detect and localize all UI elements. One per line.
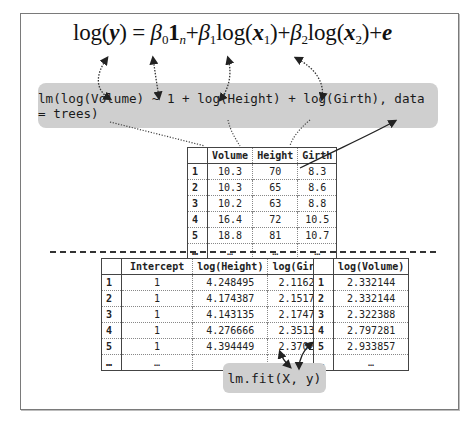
table-row: 414.2766662.351375 xyxy=(102,323,338,339)
table-cell: 8.3 xyxy=(298,164,337,180)
column-header: Height xyxy=(253,148,298,164)
formula-x1: x xyxy=(252,20,263,45)
table-cell: 63 xyxy=(253,196,298,212)
regression-formula: log(y) = β01n+β1log(x1)+β2log(x2)+e xyxy=(73,20,392,46)
row-index: 1 xyxy=(314,275,334,291)
table-cell: 2.933857 xyxy=(334,339,409,355)
formula-text: log( xyxy=(73,20,109,45)
table-row: 310.2638.8 xyxy=(188,196,337,212)
formula-text: ) = xyxy=(119,20,150,45)
lm-fit-code: lm.fit(X, y) xyxy=(228,371,322,386)
formula-beta2: β xyxy=(290,20,301,45)
table-cell: 65 xyxy=(253,180,298,196)
table-cell: 8.6 xyxy=(298,180,337,196)
row-index: 2 xyxy=(188,180,208,196)
table-cell: 4.143135 xyxy=(193,307,268,323)
lm-call-code: lm(log(Volume) ~ 1 + log(Height) + log(G… xyxy=(38,91,438,121)
table-cell: … xyxy=(334,355,409,371)
table-cell: 81 xyxy=(253,228,298,244)
row-index: 3 xyxy=(102,307,122,323)
column-header xyxy=(102,259,122,275)
table-cell: 72 xyxy=(253,212,298,228)
table-row: 52.933857 xyxy=(314,339,409,355)
table-row: 22.332144 xyxy=(314,291,409,307)
formula-text: log( xyxy=(308,20,344,45)
formula-text: log( xyxy=(216,20,252,45)
table-row: 42.797281 xyxy=(314,323,409,339)
table-cell: 4.174387 xyxy=(193,291,268,307)
table-cell: 10.3 xyxy=(208,164,253,180)
table-cell: … xyxy=(122,355,193,371)
table-cell: 1 xyxy=(122,323,193,339)
formula-y: y xyxy=(109,20,119,45)
table-header-row: Volume Height Girth xyxy=(188,148,337,164)
formula-text: + xyxy=(186,20,199,45)
table-cell: 4.394449 xyxy=(193,339,268,355)
table-cell: 10.2 xyxy=(208,196,253,212)
row-index: 5 xyxy=(314,339,334,355)
table-cell: 18.8 xyxy=(208,228,253,244)
formula-beta1: β xyxy=(199,20,210,45)
table-header-row: log(Volume) xyxy=(314,259,409,275)
formula-ones-vector: 1 xyxy=(168,20,179,45)
row-index: 2 xyxy=(102,291,122,307)
table-row: 32.322388 xyxy=(314,307,409,323)
row-index: 5 xyxy=(102,339,122,355)
column-header: log(Height) xyxy=(193,259,268,275)
row-index: 1 xyxy=(102,275,122,291)
table-cell: 10.5 xyxy=(298,212,337,228)
column-header xyxy=(314,259,334,275)
row-index: 4 xyxy=(188,212,208,228)
table-cell: 2.322388 xyxy=(334,307,409,323)
lm-call-box: lm(log(Volume) ~ 1 + log(Height) + log(G… xyxy=(38,83,438,128)
row-index: … xyxy=(102,355,122,371)
table-row: 214.1743872.151762 xyxy=(102,291,338,307)
table-cell: 1 xyxy=(122,291,193,307)
table-cell: 8.8 xyxy=(298,196,337,212)
row-index: 2 xyxy=(314,291,334,307)
trees-table: Volume Height Girth 110.3708.3 210.3658.… xyxy=(187,147,337,260)
table-cell: 4.276666 xyxy=(193,323,268,339)
formula-beta0: β xyxy=(151,20,162,45)
column-header: Intercept xyxy=(122,259,193,275)
table-cell: 2.332144 xyxy=(334,275,409,291)
table-row: 12.332144 xyxy=(314,275,409,291)
column-header xyxy=(188,148,208,164)
formula-error: e xyxy=(382,20,392,45)
column-header: Volume xyxy=(208,148,253,164)
table-cell: 1 xyxy=(122,339,193,355)
row-index: 5 xyxy=(188,228,208,244)
table-header-row: Intercept log(Height) log(Girth) xyxy=(102,259,338,275)
response-vector-table: log(Volume) 12.332144 22.332144 32.32238… xyxy=(313,258,409,371)
table-cell: 10.7 xyxy=(298,228,337,244)
section-divider xyxy=(50,251,436,253)
formula-x2: x xyxy=(344,20,355,45)
table-row: 210.3658.6 xyxy=(188,180,337,196)
table-cell: 70 xyxy=(253,164,298,180)
table-cell: 1 xyxy=(122,307,193,323)
table-cell: 2.797281 xyxy=(334,323,409,339)
row-index: 3 xyxy=(314,307,334,323)
column-header: Girth xyxy=(298,148,337,164)
table-row: 514.3944492.370244 xyxy=(102,339,338,355)
lm-fit-call-box: lm.fit(X, y) xyxy=(223,363,326,393)
table-row: 314.1431352.174752 xyxy=(102,307,338,323)
table-cell: 10.3 xyxy=(208,180,253,196)
row-index: 3 xyxy=(188,196,208,212)
table-row: 114.2484952.116256 xyxy=(102,275,338,291)
row-index: 1 xyxy=(188,164,208,180)
table-row: 518.88110.7 xyxy=(188,228,337,244)
row-index: 4 xyxy=(102,323,122,339)
table-cell: 16.4 xyxy=(208,212,253,228)
formula-text: )+ xyxy=(362,20,382,45)
table-row: …… xyxy=(314,355,409,371)
row-index: 4 xyxy=(314,323,334,339)
table-row: 416.47210.5 xyxy=(188,212,337,228)
table-cell: 4.248495 xyxy=(193,275,268,291)
table-cell: 2.332144 xyxy=(334,291,409,307)
table-cell: 1 xyxy=(122,275,193,291)
formula-text: )+ xyxy=(270,20,290,45)
column-header: log(Volume) xyxy=(334,259,409,275)
design-matrix-table: Intercept log(Height) log(Girth) 114.248… xyxy=(101,258,338,371)
table-row: 110.3708.3 xyxy=(188,164,337,180)
